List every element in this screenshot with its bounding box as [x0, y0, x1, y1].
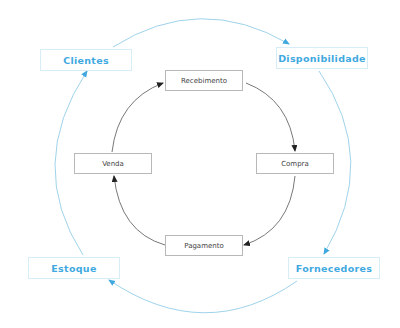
- edge-fornecedores-estoque: [109, 280, 297, 313]
- edge-recebimento-compra: [246, 83, 295, 151]
- edge-venda-recebimento: [112, 83, 163, 152]
- node-pagamento: Pagamento: [165, 235, 243, 256]
- edge-compra-pagamento: [244, 176, 295, 245]
- node-disponibilidade: Disponibilidade: [276, 47, 368, 69]
- edge-pagamento-venda: [114, 176, 165, 245]
- node-compra: Compra: [256, 153, 334, 174]
- node-clientes: Clientes: [40, 49, 132, 71]
- node-recebimento: Recebimento: [165, 70, 243, 91]
- node-estoque: Estoque: [28, 257, 120, 279]
- edge-clientes-disponibilidade: [113, 19, 289, 47]
- node-fornecedores: Fornecedores: [288, 257, 380, 279]
- node-venda: Venda: [74, 153, 152, 174]
